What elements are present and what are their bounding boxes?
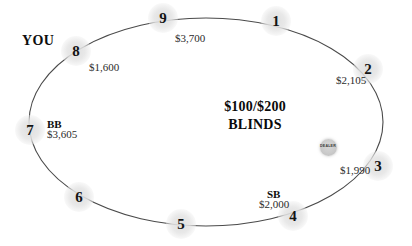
seat-marker-1[interactable]: 1 — [261, 6, 291, 36]
seat-marker-9[interactable]: 9 — [148, 3, 178, 33]
stack-amount-seat-9: $3,700 — [175, 33, 205, 45]
dealer-button-label: DEALER — [320, 145, 336, 149]
seat-marker-8[interactable]: 8 — [61, 36, 91, 66]
dealer-button[interactable]: DEALER — [320, 139, 337, 156]
stack-amount-seat-7: $3,605 — [47, 129, 77, 141]
seat-number-label: 6 — [75, 190, 83, 205]
seat-number-label: 5 — [177, 217, 185, 232]
position-tag-seat-4: SB — [267, 189, 280, 201]
seat-number-label: 8 — [72, 44, 80, 59]
stack-amount-seat-3: $1,990 — [340, 165, 370, 177]
seat-number-label: 7 — [26, 123, 34, 138]
blinds-info: $100/$200 BLINDS — [224, 98, 286, 134]
blinds-amount: $100/$200 — [224, 98, 286, 116]
blinds-label: BLINDS — [224, 116, 286, 134]
stack-amount-seat-8: $1,600 — [89, 62, 119, 74]
seat-number-label: 9 — [159, 11, 167, 26]
stack-amount-seat-2: $2,105 — [336, 75, 366, 87]
seat-number-label: 1 — [272, 14, 280, 29]
seat-marker-6[interactable]: 6 — [64, 182, 94, 212]
poker-table-diagram: 12$2,1053$1,9904$2,000SB567$3,605BB8$1,6… — [0, 0, 412, 246]
seat-number-label: 3 — [374, 159, 382, 174]
stack-amount-seat-4: $2,000 — [259, 199, 289, 211]
seat-number-label: 4 — [289, 209, 297, 224]
position-tag-seat-7: BB — [47, 119, 62, 131]
seat-marker-5[interactable]: 5 — [166, 209, 196, 239]
seat-marker-7[interactable]: 7 — [15, 115, 45, 145]
position-tag-seat-8: YOU — [22, 34, 54, 49]
